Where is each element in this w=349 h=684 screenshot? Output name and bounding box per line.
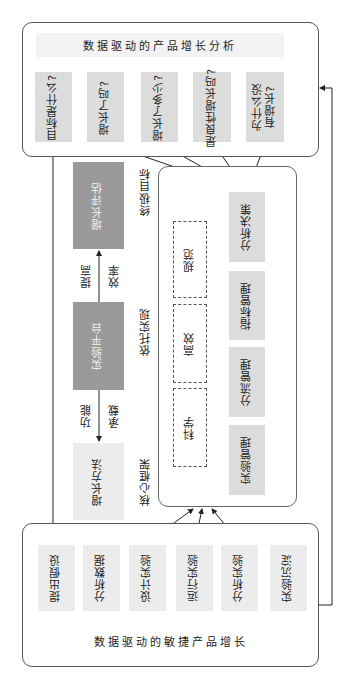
agile-growth-title-wrap: 数据驱动的敏捷产品增长: [36, 630, 306, 652]
principle-label: 规范: [184, 248, 197, 272]
step-label: 增长了吗?: [99, 80, 112, 135]
edge-label-carry: 承载: [108, 402, 122, 430]
module-traffic-split[interactable]: 分流管理: [229, 347, 265, 417]
step-why-not[interactable]: 为什么没有增长?: [246, 72, 284, 142]
growth-eval-box[interactable]: 增长评估: [73, 162, 124, 249]
growth-eval-label: 增长评估: [92, 182, 105, 230]
step-how-much[interactable]: 增长了多少?: [141, 72, 178, 142]
principle-standard: 规范: [173, 221, 207, 298]
rely-on-text: 依托实现: [140, 308, 153, 356]
step-grew[interactable]: 增长了吗?: [87, 72, 124, 142]
edge-label-text: 承载: [109, 404, 122, 428]
module-analysis-decision[interactable]: 分析决策: [229, 192, 265, 262]
step-label: 为什么没有增长?: [252, 79, 277, 135]
edge-label-function: 功能: [80, 402, 94, 430]
ultimate-goal-text: 终极目标: [140, 168, 153, 216]
edge-label-improve: 提高: [80, 262, 94, 290]
edge-label-text: 功能: [81, 404, 94, 428]
step-hypothesis[interactable]: 提出假设: [38, 545, 75, 611]
step-label: 增长了多少?: [153, 74, 166, 141]
principle-label: 高效: [184, 332, 197, 356]
step-label: 实验沉淀: [282, 554, 295, 602]
step-label: 分析实验: [233, 554, 246, 602]
step-design-experiment[interactable]: 设计实验: [129, 545, 166, 611]
step-label: 提出假设: [50, 554, 63, 602]
step-run-experiment[interactable]: 运行实验: [176, 545, 213, 611]
module-label: 实验管理: [241, 436, 254, 484]
principle-scientific: 科学: [173, 388, 207, 467]
ultimate-goal-label: 终极目标: [138, 170, 154, 214]
core-framework-text: 核心框架: [140, 458, 153, 506]
principle-label: 科学: [184, 416, 197, 440]
step-label: 运行实验: [188, 554, 201, 602]
principle-efficient: 高效: [173, 304, 207, 383]
step-label: 设计实验: [141, 554, 154, 602]
step-analyze-data[interactable]: 分析数据: [83, 545, 120, 611]
growth-method-label: 增长方法: [92, 458, 105, 506]
step-label: 分析数据: [95, 554, 108, 602]
growth-method-box[interactable]: 增长方法: [73, 443, 124, 520]
step-label: 目标是什么?: [47, 74, 60, 141]
edge-label-text: 效率: [109, 264, 122, 288]
module-experiment-management[interactable]: 实验管理: [229, 425, 265, 495]
module-label: 分析决策: [241, 203, 254, 251]
analysis-panel-title: 数据驱动的产品增长分析: [83, 37, 237, 53]
step-goal[interactable]: 目标是什么?: [35, 72, 72, 142]
module-label: 指标管理: [241, 282, 254, 330]
step-healthy[interactable]: 是良性增长吗?: [193, 72, 231, 142]
edge-label-text: 提高: [81, 264, 94, 288]
analysis-panel-title-strip: 数据驱动的产品增长分析: [36, 33, 284, 57]
step-analyze-experiment[interactable]: 分析实验: [221, 545, 258, 611]
module-metric-management[interactable]: 指标管理: [229, 271, 265, 340]
step-label: 是良性增长吗?: [206, 68, 219, 147]
step-experiment-archive[interactable]: 实验沉淀: [270, 545, 307, 611]
agile-growth-title: 数据驱动的敏捷产品增长: [94, 633, 248, 649]
platform-label: 实验平台: [92, 322, 105, 370]
platform-box[interactable]: 实验平台: [73, 302, 124, 390]
module-label: 分流管理: [241, 358, 254, 406]
edge-label-efficiency: 效率: [108, 262, 122, 290]
rely-on-label: 依托实现: [138, 310, 154, 354]
core-framework-label: 核心框架: [138, 460, 154, 504]
